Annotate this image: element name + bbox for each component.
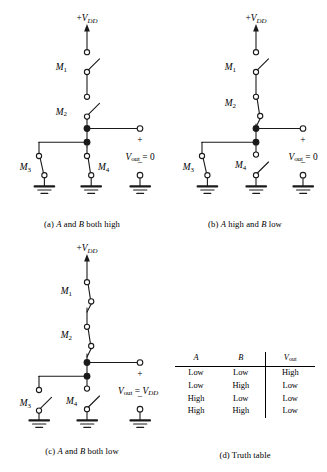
cell-a: High	[175, 393, 217, 406]
panel-b-schematic: +VDD M1 M2 M3 M4 + − Vout = 0	[163, 0, 327, 236]
switch-label-m3-b: M3	[182, 162, 195, 173]
output-terminal-minus-c	[137, 406, 143, 412]
panel-a-both-high: +VDD M1 M2 M3 M4 + − Vout = 0 (a) A and …	[0, 0, 164, 236]
nor-gate-switch-figure: +VDD M1 M2 M3 M4 + − Vout = 0 (a) A and …	[0, 0, 327, 472]
switch-m3-b[interactable]	[199, 153, 210, 186]
column-header-a: A	[175, 352, 217, 367]
output-plus-sign-a: +	[137, 135, 142, 145]
output-terminal-plus-c	[137, 360, 143, 366]
cell-b: High	[217, 380, 265, 393]
cell-b: High	[217, 405, 265, 418]
switch-m4-c[interactable]	[84, 396, 99, 420]
switch-m1-b[interactable]	[253, 59, 268, 75]
vout-label-a: Vout = 0	[125, 152, 155, 163]
output-terminal-plus-a	[137, 126, 143, 132]
output-terminal-minus-a	[137, 172, 143, 178]
switch-m3-a[interactable]	[36, 153, 47, 186]
supply-terminal-c	[84, 280, 89, 285]
supply-terminal-a	[84, 50, 89, 55]
switch-m1-c[interactable]	[87, 285, 94, 312]
column-header-b: B	[217, 352, 265, 367]
supply-arrow-b	[253, 24, 259, 50]
cell-vout: Low	[265, 405, 315, 418]
ground-symbol-m3-b	[198, 186, 218, 193]
panel-b-a-high-b-low: +VDD M1 M2 M3 M4 + − Vout = 0 (b) A high…	[163, 0, 327, 236]
switch-label-m4-a: M4	[97, 162, 110, 173]
switch-label-m1-c: M1	[60, 286, 73, 297]
terminal-m4-top-c	[84, 386, 89, 391]
panel-c-caption: (c) A and B both low	[0, 446, 164, 456]
panel-c-both-low: +VDD M1 M2 M3 M4 + − Vout = VDD (c) A an…	[0, 238, 164, 472]
switch-m4-a[interactable]	[84, 153, 93, 186]
switch-m2-c[interactable]	[87, 329, 94, 357]
switch-label-m1-a: M1	[55, 62, 68, 73]
terminal-m2-top-b	[253, 94, 258, 99]
column-header-vout: Vout	[265, 352, 315, 367]
cell-vout: Low	[265, 393, 315, 406]
switch-label-m2-a: M2	[55, 107, 68, 118]
ground-symbol-output-a	[130, 186, 150, 193]
cell-b: Low	[217, 393, 265, 406]
table-row: High High Low	[175, 405, 315, 418]
cell-a: Low	[175, 367, 217, 380]
cell-vout: Low	[265, 380, 315, 393]
cell-b: Low	[217, 367, 265, 380]
switch-label-m3-a: M3	[19, 162, 32, 173]
output-terminal-plus-b	[300, 126, 306, 132]
supply-label-b: +VDD	[246, 13, 267, 24]
supply-terminal-b	[253, 50, 258, 55]
table-header-row: A B Vout	[175, 352, 315, 367]
table-row: Low High Low	[175, 380, 315, 393]
supply-label-a: +VDD	[77, 13, 98, 24]
truth-table: A B Vout Low Low High Low High Low High	[175, 352, 315, 418]
terminal-m2-top-a	[84, 94, 89, 99]
ground-symbol-m4-a	[81, 186, 101, 193]
cell-vout: High	[265, 367, 315, 380]
supply-arrow-c	[84, 254, 90, 280]
terminal-m4-top-b	[253, 152, 258, 157]
switch-m1-a[interactable]	[84, 59, 99, 75]
ground-symbol-output-b	[293, 186, 313, 193]
panel-d-truth-table: A B Vout Low Low High Low High Low High	[163, 350, 327, 472]
switch-m3-c[interactable]	[36, 387, 51, 420]
vout-label-b: Vout = 0	[288, 152, 318, 163]
switch-label-m1-b: M1	[224, 62, 237, 73]
switch-label-m3-c: M3	[19, 398, 32, 409]
output-plus-sign-c: +	[137, 369, 142, 379]
truth-table-body: Low Low High Low High Low High Low Low H…	[175, 367, 315, 419]
vout-label-c: Vout = VDD	[118, 386, 158, 397]
panel-a-schematic: +VDD M1 M2 M3 M4 + − Vout = 0	[0, 0, 164, 236]
table-row: Low Low High	[175, 367, 315, 380]
switch-label-m2-c: M2	[60, 330, 73, 341]
panel-a-caption: (a) A and B both high	[0, 219, 164, 229]
ground-symbol-m4-c	[77, 420, 97, 427]
panel-b-caption: (b) A high and B low	[163, 219, 327, 229]
panel-d-caption: (d) Truth table	[163, 450, 327, 460]
terminal-m2-top-c	[84, 324, 89, 329]
switch-label-m4-c: M4	[65, 396, 78, 407]
switch-label-m2-b: M2	[224, 98, 237, 109]
switch-m4-b[interactable]	[253, 162, 268, 186]
ground-symbol-m3-c	[29, 420, 49, 427]
supply-arrow-a	[84, 24, 90, 50]
switch-label-m4-b: M4	[234, 160, 247, 171]
supply-label-c: +VDD	[77, 243, 98, 254]
switch-m2-a[interactable]	[84, 103, 99, 119]
cell-a: Low	[175, 380, 217, 393]
panel-c-schematic: +VDD M1 M2 M3 M4 + − Vout = VDD	[0, 238, 164, 472]
ground-symbol-m4-b	[246, 186, 266, 193]
table-row: High Low Low	[175, 393, 315, 406]
ground-symbol-output-c	[130, 420, 150, 427]
ground-symbol-m3-a	[35, 186, 55, 193]
switch-m2-b[interactable]	[256, 99, 263, 127]
output-terminal-minus-b	[300, 172, 306, 178]
cell-a: High	[175, 405, 217, 418]
output-plus-sign-b: +	[300, 135, 305, 145]
